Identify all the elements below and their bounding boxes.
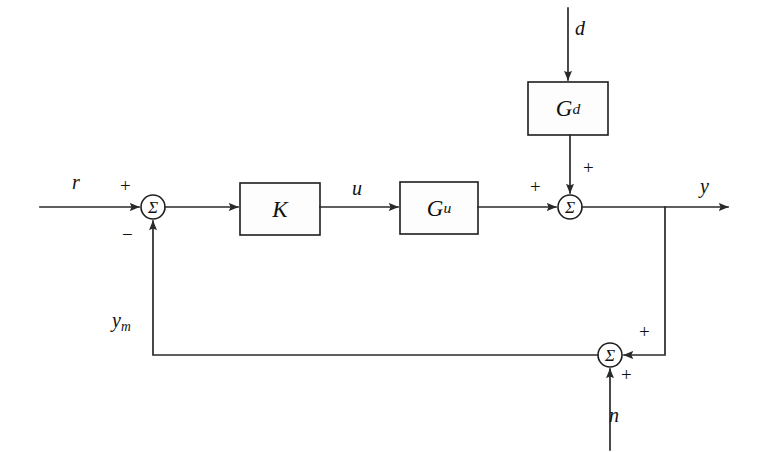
sum-error-glyph: Σ [141, 195, 165, 219]
block-diagram: Gd K Gu Σ Σ Σ r u y d n ym + − + + + + [0, 0, 761, 452]
sign-ym-minus: − [122, 225, 133, 244]
sum-measure-glyph: Σ [598, 343, 622, 367]
block-label-Gu: Gu [400, 182, 478, 234]
signal-label-u: u [352, 178, 362, 201]
signal-label-n-base: n [609, 404, 619, 426]
signal-label-ym-base: y [112, 309, 121, 331]
sign-n-plus: + [621, 365, 632, 384]
signal-label-y: y [700, 176, 709, 199]
block-label-K-base: K [272, 198, 287, 221]
block-label-Gu-base: G [427, 197, 444, 220]
sign-r-plus: + [120, 176, 131, 195]
block-label-Gu-sub: u [443, 200, 451, 216]
signal-label-u-base: u [352, 177, 362, 199]
signal-label-d-base: d [575, 17, 585, 39]
sign-y-fb-plus: + [639, 322, 650, 341]
signal-label-y-base: y [700, 175, 709, 197]
diagram-canvas [0, 0, 761, 452]
sum-output-glyph: Σ [558, 195, 582, 219]
wire-feedback [153, 221, 598, 355]
block-label-Gd-base: G [556, 97, 573, 120]
signal-label-ym-sub: m [121, 319, 131, 334]
sign-gd-plus: + [583, 158, 594, 177]
signal-label-r-base: r [72, 171, 80, 193]
signal-label-ym: ym [112, 310, 131, 333]
sign-gu-plus: + [530, 177, 541, 196]
signal-label-n: n [609, 405, 619, 428]
block-label-K: K [240, 183, 320, 235]
signal-label-r: r [72, 172, 80, 195]
block-label-Gd: Gd [528, 82, 608, 135]
signal-label-d: d [575, 18, 585, 41]
block-label-Gd-sub: d [572, 101, 580, 117]
